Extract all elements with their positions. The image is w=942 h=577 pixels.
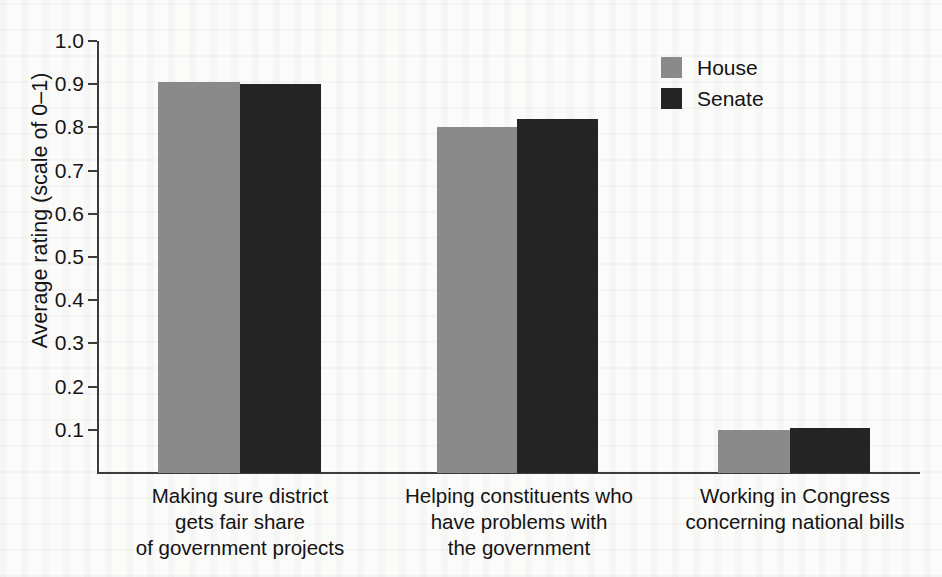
- bar-senate-2[interactable]: [790, 428, 870, 473]
- y-tick-label: 0.4: [0, 289, 84, 310]
- chart-page: Average rating (scale of 0–1) 0.10.20.30…: [0, 0, 942, 577]
- y-tick-label: 0.1: [0, 419, 84, 440]
- legend-label-house: House: [697, 57, 758, 78]
- y-tick-label: 1.0: [0, 30, 84, 51]
- y-tick-mark: [88, 126, 97, 128]
- y-tick-mark: [88, 386, 97, 388]
- y-tick-label: 0.6: [0, 203, 84, 224]
- bar-house-1[interactable]: [437, 127, 517, 473]
- y-tick-label: 0.3: [0, 332, 84, 353]
- x-axis-label-line: Working in Congress: [650, 483, 940, 509]
- y-tick-mark: [88, 170, 97, 172]
- x-axis-label-line: concerning national bills: [650, 509, 940, 535]
- y-tick-mark: [88, 429, 97, 431]
- y-tick-label: 0.9: [0, 73, 84, 94]
- bar-house-0[interactable]: [158, 82, 240, 473]
- bar-house-2[interactable]: [718, 430, 790, 473]
- y-tick-label: 0.7: [0, 160, 84, 181]
- y-tick-mark: [88, 40, 97, 42]
- x-axis-label-line: have problems with: [369, 509, 669, 535]
- y-tick-label: 0.2: [0, 376, 84, 397]
- x-axis-label-line: Helping constituents who: [369, 483, 669, 509]
- legend-swatch-senate-icon: [661, 88, 682, 109]
- bar-senate-1[interactable]: [517, 119, 598, 473]
- x-axis-label-line: gets fair share: [90, 509, 390, 535]
- y-tick-mark: [88, 299, 97, 301]
- chart-legend: House Senate: [661, 52, 764, 114]
- x-axis-label-line: Making sure district: [90, 483, 390, 509]
- plot-area: [97, 41, 920, 473]
- x-axis-label-line: of government projects: [90, 535, 390, 561]
- legend-item-senate[interactable]: Senate: [661, 83, 764, 114]
- y-tick-mark: [88, 342, 97, 344]
- legend-label-senate: Senate: [697, 88, 764, 109]
- y-tick-mark: [88, 213, 97, 215]
- y-tick-label: 0.8: [0, 116, 84, 137]
- x-axis-label-2: Working in Congressconcerning national b…: [650, 483, 940, 535]
- x-axis-label-0: Making sure districtgets fair shareof go…: [90, 483, 390, 561]
- x-axis-label-line: the government: [369, 535, 669, 561]
- y-tick-label: 0.5: [0, 246, 84, 267]
- y-tick-mark: [88, 83, 97, 85]
- x-axis-label-1: Helping constituents whohave problems wi…: [369, 483, 669, 561]
- y-tick-mark: [88, 256, 97, 258]
- legend-swatch-house-icon: [661, 57, 682, 78]
- legend-item-house[interactable]: House: [661, 52, 764, 83]
- bar-senate-0[interactable]: [240, 84, 321, 473]
